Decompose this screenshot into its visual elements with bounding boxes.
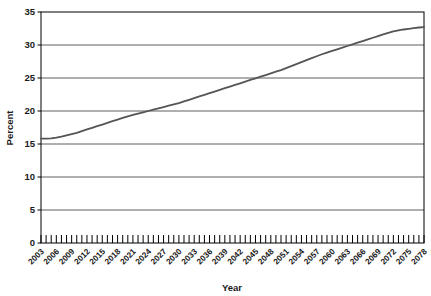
y-axis-tick-label: 15: [24, 138, 35, 149]
y-axis-tick-label: 25: [24, 72, 35, 83]
y-axis-title: Percent: [4, 110, 15, 146]
line-chart: 05101520253035 2003200620092012201520182…: [0, 0, 431, 296]
y-axis-tick-label: 5: [30, 204, 36, 215]
y-axis-tick-label: 35: [24, 6, 35, 17]
y-axis-tick-label: 0: [30, 237, 35, 248]
y-axis-tick-label: 30: [24, 39, 35, 50]
y-axis-tick-label: 20: [24, 105, 35, 116]
y-axis-tick-label: 10: [24, 171, 35, 182]
chart-container: 05101520253035 2003200620092012201520182…: [0, 0, 431, 296]
x-axis-title: Year: [222, 282, 242, 293]
